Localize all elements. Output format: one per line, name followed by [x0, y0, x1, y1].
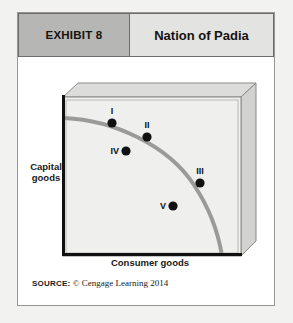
source-text: © Cengage Learning 2014: [73, 278, 169, 288]
exhibit-frame: EXHIBIT 8 Nation of Padia: [17, 12, 275, 306]
data-point-ii: [142, 132, 151, 141]
exhibit-number-label: EXHIBIT 8: [46, 29, 103, 41]
chart-stage: I II III IV V Capital goods Consu: [18, 57, 274, 273]
exhibit-header: EXHIBIT 8 Nation of Padia: [18, 13, 274, 57]
box-right-face: [241, 83, 256, 256]
data-point-label-i: I: [111, 106, 114, 116]
data-point-label-ii: II: [144, 120, 149, 130]
data-point-iv: [121, 146, 130, 155]
screenshot-root: EXHIBIT 8 Nation of Padia: [0, 0, 293, 323]
source-line: SOURCE: © Cengage Learning 2014: [32, 278, 168, 288]
exhibit-title-cell: Nation of Padia: [130, 13, 274, 57]
x-axis-label: Consumer goods: [70, 257, 230, 268]
data-point-iii: [195, 178, 204, 187]
data-point-i: [107, 118, 116, 127]
data-point-label-iii: III: [196, 166, 204, 176]
exhibit-title-label: Nation of Padia: [154, 28, 249, 43]
y-axis-label-line1: Capital: [24, 161, 68, 172]
data-point-label-iv: IV: [110, 146, 119, 156]
data-point-label-v: V: [160, 201, 166, 211]
source-label: SOURCE:: [32, 279, 70, 288]
data-point-v: [168, 201, 177, 210]
y-axis-label: Capital goods: [24, 161, 68, 183]
box-top-face: [63, 83, 256, 97]
exhibit-number-cell: EXHIBIT 8: [18, 13, 130, 57]
y-axis-label-line2: goods: [24, 172, 68, 183]
